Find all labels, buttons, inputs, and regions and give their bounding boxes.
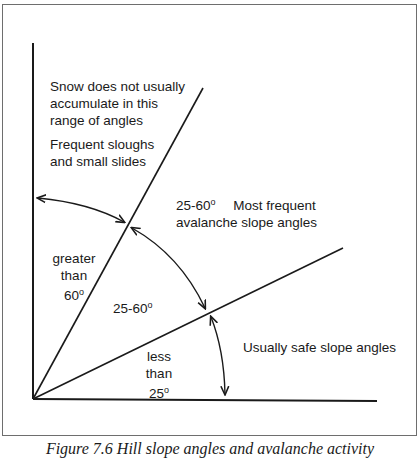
- degree-symbol: o: [164, 385, 169, 395]
- avalanche-zone-description: 25-60o Most frequent avalanche slope ang…: [176, 194, 317, 231]
- arc-arrow-greater-than-60: [38, 198, 124, 222]
- greater-line: greater: [44, 250, 104, 267]
- than-line: than: [44, 267, 104, 284]
- avalanche-inner-label: 25-60o: [113, 297, 153, 317]
- steep-note-line-2: and small slides: [50, 153, 154, 170]
- steep-zone-description: Snow does not usually accumulate in this…: [50, 78, 185, 129]
- degree-symbol: o: [79, 287, 84, 297]
- degree-symbol: o: [211, 197, 216, 207]
- figure-caption: Figure 7.6 Hill slope angles and avalanc…: [0, 440, 420, 458]
- arc-arrow-25-60: [132, 228, 205, 308]
- avalanche-desc-line-2: avalanche slope angles: [176, 214, 317, 231]
- horizontal-ground-line: [33, 399, 377, 401]
- steep-desc-line-1: Snow does not usually: [50, 78, 185, 95]
- safe-zone-description: Usually safe slope angles: [243, 339, 396, 356]
- less-than-25-label: less than 25o: [139, 348, 179, 402]
- arc-arrow-less-than-25: [211, 317, 225, 394]
- avalanche-range-value: 25-60: [176, 198, 211, 213]
- steep-desc-line-3: range of angles: [50, 112, 185, 129]
- less-line: less: [139, 348, 179, 365]
- sixty-value: 60: [64, 288, 79, 303]
- inner-range-value: 25-60: [113, 301, 148, 316]
- steep-zone-note: Frequent sloughs and small slides: [50, 136, 154, 170]
- greater-than-60-label: greater than 60o: [44, 250, 104, 304]
- avalanche-desc-line-1: Most frequent: [233, 198, 316, 213]
- than-line: than: [139, 365, 179, 382]
- degree-symbol: o: [148, 300, 153, 310]
- steep-desc-line-2: accumulate in this: [50, 95, 185, 112]
- steep-note-line-1: Frequent sloughs: [50, 136, 154, 153]
- twenty-five-value: 25: [149, 386, 164, 401]
